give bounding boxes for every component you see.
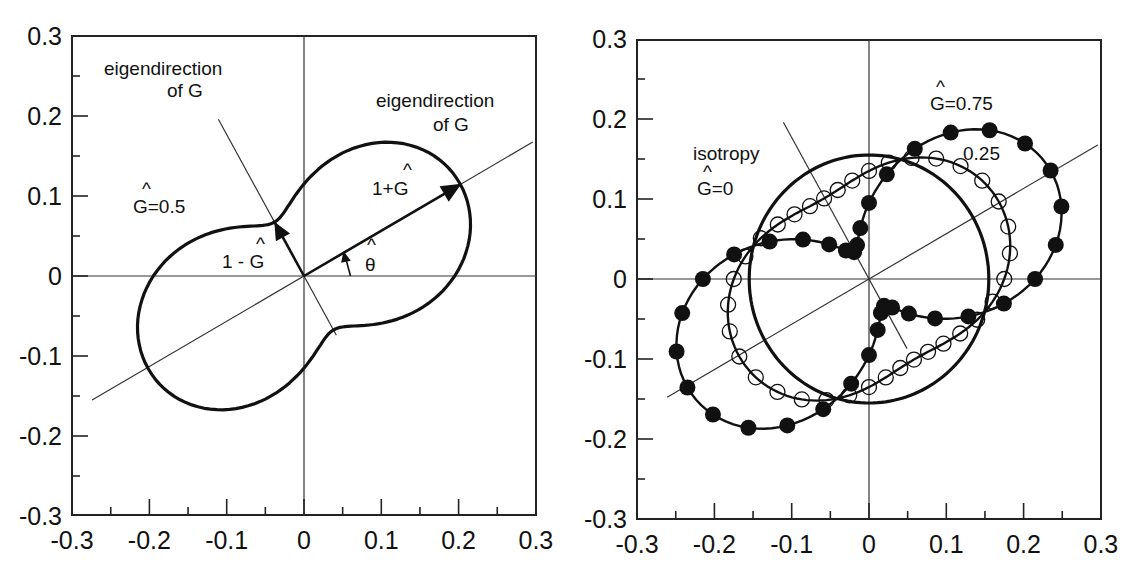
y-tick-label: 0.3 (592, 25, 627, 53)
x-tick-label: 0.2 (1006, 530, 1041, 558)
x-tick-label: 0.1 (364, 526, 399, 554)
x-tick-label: -0.2 (128, 526, 171, 554)
y-tick-label: -0.3 (19, 502, 62, 530)
filled-marker (779, 417, 795, 433)
filled-marker (838, 243, 854, 259)
x-tick-label: 0.3 (1084, 530, 1119, 558)
filled-marker (861, 347, 877, 363)
y-tick-label: 0.1 (27, 182, 62, 210)
x-tick-label: -0.3 (616, 530, 659, 558)
annot-0-25: 0.25 (963, 143, 1000, 164)
y-tick-label: 0.2 (27, 102, 62, 130)
right-polar-plot: -0.3-0.2-0.100.10.20.30.30.20.10-0.1-0.2… (584, 25, 1118, 558)
left-annotations: eigendirection of G eigendirection of G … (104, 58, 494, 275)
filled-marker (861, 195, 877, 211)
hat-icon: ^ (703, 161, 712, 182)
x-tick-label: 0.1 (929, 530, 964, 558)
annot-1-minus-g: 1 - G (222, 251, 264, 272)
arrowhead-icon (440, 184, 462, 202)
filled-marker (740, 420, 756, 436)
filled-marker (879, 166, 895, 182)
annot-eigendirection-1: eigendirection (104, 58, 222, 79)
left-polar-plot: -0.3-0.2-0.100.10.20.30.30.20.10-0.1-0.2… (19, 22, 553, 554)
x-tick-label: 0.2 (441, 526, 476, 554)
y-tick-label: 0 (613, 265, 627, 293)
filled-marker (821, 236, 837, 252)
filled-marker (884, 299, 900, 315)
filled-marker (960, 308, 976, 324)
x-tick-label: 0 (862, 530, 876, 558)
filled-marker (1027, 271, 1043, 287)
annot-1-plus-g: 1+G (372, 178, 408, 199)
figure: -0.3-0.2-0.100.10.20.30.30.20.10-0.1-0.2… (0, 0, 1140, 576)
x-tick-label: -0.1 (205, 526, 248, 554)
filled-marker (679, 379, 695, 395)
filled-marker (927, 310, 943, 326)
annot-of-g-1: of G (167, 80, 203, 101)
hat-icon: ^ (142, 178, 151, 199)
hat-icon: ^ (367, 234, 376, 255)
y-tick-label: -0.3 (584, 505, 627, 533)
y-tick-label: -0.2 (584, 425, 627, 453)
y-tick-label: -0.1 (584, 345, 627, 373)
y-tick-label: 0.2 (592, 105, 627, 133)
filled-marker (982, 122, 998, 138)
annot-theta: θ (365, 254, 376, 275)
hat-icon: ^ (403, 159, 412, 180)
annot-g-equals-0-5: G=0.5 (133, 196, 185, 217)
x-tick-label: 0.3 (519, 526, 554, 554)
filled-marker (1017, 135, 1033, 151)
y-tick-label: -0.2 (19, 422, 62, 450)
filled-marker (815, 401, 831, 417)
x-tick-label: 0 (297, 526, 311, 554)
y-tick-label: -0.1 (19, 342, 62, 370)
hat-icon: ^ (936, 76, 945, 97)
x-tick-label: -0.1 (770, 530, 813, 558)
filled-marker (1053, 199, 1069, 215)
filled-marker (843, 376, 859, 392)
filled-marker (795, 232, 811, 248)
filled-marker (1048, 237, 1064, 253)
filled-marker (762, 234, 778, 250)
filled-marker (907, 141, 923, 157)
filled-marker (870, 322, 886, 338)
hat-icon: ^ (256, 233, 265, 254)
right-axes: -0.3-0.2-0.100.10.20.30.30.20.10-0.1-0.2… (584, 25, 1118, 558)
filled-marker (943, 125, 959, 141)
filled-marker (705, 407, 721, 423)
filled-marker (674, 305, 690, 321)
filled-marker (901, 306, 917, 322)
y-tick-label: 0.3 (27, 22, 62, 50)
annot-of-g-2: of G (433, 114, 469, 135)
y-tick-label: 0.1 (592, 185, 627, 213)
filled-marker (726, 246, 742, 262)
x-tick-label: -0.3 (51, 526, 94, 554)
filled-marker (669, 343, 685, 359)
filled-marker (852, 220, 868, 236)
y-tick-label: 0 (48, 262, 62, 290)
x-tick-label: -0.2 (693, 530, 736, 558)
filled-marker (695, 271, 711, 287)
filled-marker (996, 296, 1012, 312)
filled-marker (1043, 163, 1059, 179)
annot-eigendirection-2: eigendirection (376, 90, 494, 111)
